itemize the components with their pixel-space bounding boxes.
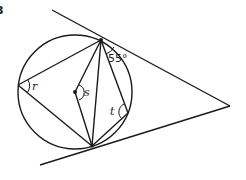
angle-arc-r	[27, 80, 30, 93]
chord-top-left	[18, 40, 101, 85]
point-bottom	[90, 144, 93, 147]
angle-label-t: t	[110, 105, 115, 118]
upper-tangent-line	[52, 10, 230, 106]
angle-label-s: s	[84, 86, 90, 99]
angle-label-55: 55°	[108, 52, 128, 65]
lower-tangent-line	[40, 106, 230, 165]
circle-theorem-diagram: 3 55° r s t	[0, 0, 246, 180]
question-number: 3	[0, 4, 4, 17]
radius-bottom	[75, 92, 92, 146]
point-top	[99, 38, 103, 42]
centre-point	[73, 90, 77, 94]
chord-left-bottom	[18, 85, 92, 146]
angle-label-r: r	[32, 80, 38, 93]
